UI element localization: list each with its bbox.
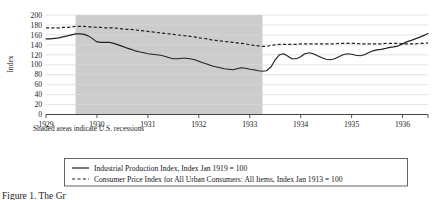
y-tick-label: 180 — [31, 21, 43, 30]
y-tick-label: 60 — [34, 80, 42, 89]
figure-container: 020406080100120140160180200 192919301931… — [0, 0, 441, 200]
y-tick-label: 40 — [34, 90, 42, 99]
y-axis-title: Index — [6, 55, 15, 72]
x-tick-label: 1934 — [293, 120, 308, 129]
recession-line-chart: 020406080100120140160180200 192919301931… — [0, 0, 441, 200]
y-tick-label: 0 — [38, 110, 42, 119]
y-tick-label: 200 — [31, 11, 43, 20]
y-tick-label: 120 — [31, 51, 43, 60]
legend-label-industrial-production: Industrial Production Index, Index Jan 1… — [94, 164, 247, 173]
y-tick-label: 20 — [34, 100, 42, 109]
y-tick-label: 160 — [31, 31, 43, 40]
y-tick-label: 80 — [34, 70, 42, 79]
shaded-area-note: Shaded areas indicate U.S. recessions — [33, 124, 144, 133]
y-tick-label: 100 — [31, 60, 43, 69]
y-tick-label: 140 — [31, 41, 43, 50]
x-tick-label: 1935 — [344, 120, 359, 129]
x-tick-label: 1932 — [191, 120, 206, 129]
legend-entry-consumer-price-index: Consumer Price Index for All Urban Consu… — [72, 175, 343, 184]
legend-label-consumer-price-index: Consumer Price Index for All Urban Consu… — [94, 175, 343, 184]
x-tick-label: 1933 — [242, 120, 257, 129]
x-tick-label: 1936 — [395, 120, 410, 129]
legend-entry-industrial-production: Industrial Production Index, Index Jan 1… — [72, 164, 247, 173]
figure-caption: Figure 1. The Gr — [2, 191, 67, 200]
